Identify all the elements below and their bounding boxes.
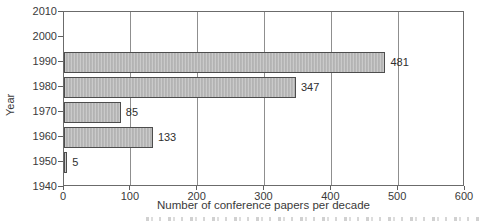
x-tick-label-500: 500: [388, 190, 406, 202]
bar-value-label-1950: 5: [72, 155, 78, 169]
y-tick-mark-1970: [58, 111, 63, 112]
y-tick-label-1950: 1950: [21, 155, 57, 167]
gridline-x-400: [331, 12, 332, 185]
gridline-x-300: [264, 12, 265, 185]
y-tick-mark-1960: [58, 136, 63, 137]
x-tick-mark-200: [196, 186, 197, 190]
plot-area: 481347851335: [63, 11, 464, 186]
y-tick-label-2000: 2000: [21, 30, 57, 42]
x-tick-mark-400: [330, 186, 331, 190]
x-tick-label-100: 100: [121, 190, 139, 202]
figure-scanned-bar-chart: Year 481347851335 Number of conference p…: [0, 0, 487, 222]
x-tick-mark-100: [129, 186, 130, 190]
bar-1950: [64, 152, 67, 173]
gridline-x-200: [197, 12, 198, 185]
x-tick-mark-300: [263, 186, 264, 190]
x-tick-label-400: 400: [321, 190, 339, 202]
gridline-x-100: [130, 12, 131, 185]
bar-1960: [64, 127, 153, 148]
y-tick-mark-1980: [58, 86, 63, 87]
bar-value-label-1990: 481: [390, 55, 408, 69]
x-tick-label-200: 200: [187, 190, 205, 202]
x-tick-label-300: 300: [254, 190, 272, 202]
bar-value-label-1960: 133: [158, 130, 176, 144]
bar-1990: [64, 52, 385, 73]
y-tick-mark-1950: [58, 161, 63, 162]
y-tick-mark-1990: [58, 61, 63, 62]
x-tick-mark-0: [63, 186, 64, 190]
x-tick-mark-600: [464, 186, 465, 190]
y-tick-mark-2000: [58, 36, 63, 37]
bar-value-label-1970: 85: [126, 105, 138, 119]
x-tick-mark-500: [397, 186, 398, 190]
gridline-x-500: [398, 12, 399, 185]
y-tick-label-1970: 1970: [21, 105, 57, 117]
y-tick-label-1960: 1960: [21, 130, 57, 142]
y-tick-label-2010: 2010: [21, 5, 57, 17]
y-axis-title: Year: [4, 94, 16, 116]
x-tick-label-600: 600: [455, 190, 473, 202]
bar-1980: [64, 77, 296, 98]
y-tick-label-1990: 1990: [21, 55, 57, 67]
bar-1970: [64, 102, 121, 123]
x-tick-label-0: 0: [60, 190, 66, 202]
y-tick-label-1980: 1980: [21, 80, 57, 92]
bar-value-label-1980: 347: [301, 80, 319, 94]
y-tick-mark-2010: [58, 11, 63, 12]
y-tick-label-1940: 1940: [21, 180, 57, 192]
cropped-caption-fragment: [146, 217, 480, 221]
